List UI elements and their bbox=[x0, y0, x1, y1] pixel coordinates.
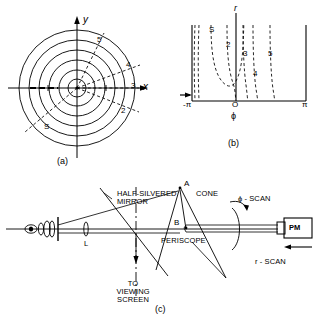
ray-2 bbox=[77, 88, 139, 112]
panel-b-tick-right: π bbox=[302, 101, 308, 109]
curve-S bbox=[211, 25, 244, 86]
panel-a-ring-label-3: 3 bbox=[131, 82, 135, 90]
curve-4 bbox=[253, 25, 258, 100]
panel-a-y-label: y bbox=[83, 15, 88, 26]
r-scan-arrowhead bbox=[284, 244, 291, 249]
panel-a-ring-label-2: 2 bbox=[121, 107, 125, 115]
panel-b-curve-label-2: 2 bbox=[226, 41, 230, 49]
lens-L-label: L bbox=[84, 240, 88, 248]
panel-c-tag: (c) bbox=[155, 305, 166, 314]
panel-a-ring-label-4: 4 bbox=[126, 61, 130, 69]
panel-a-y-arrow bbox=[74, 16, 80, 24]
panel-b-phi-label: ϕ bbox=[231, 112, 236, 121]
curve-5 bbox=[270, 25, 275, 100]
panel-a-graphic bbox=[0, 0, 180, 175]
panel-b-tag: (b) bbox=[228, 139, 239, 148]
cone-edge-inner bbox=[180, 190, 186, 229]
panel-a-x-label: x bbox=[143, 82, 148, 93]
curve-edge-1 bbox=[194, 25, 195, 100]
panel-b-curve-label-5: 5 bbox=[268, 50, 272, 58]
curve-2 bbox=[227, 25, 236, 100]
panel-b-curve-label-3: 3 bbox=[243, 50, 247, 58]
to-viewing-screen-label: TO VIEWING SCREEN bbox=[105, 280, 161, 304]
cone-face-right bbox=[180, 187, 226, 278]
point-b-label: B bbox=[174, 219, 179, 227]
point-a-marker bbox=[179, 187, 182, 190]
cone-label: CONE bbox=[196, 190, 218, 198]
panel-a-ring-label-5: 5 bbox=[97, 36, 101, 44]
pm-label: PM bbox=[289, 224, 300, 232]
phi-scan-arrowhead bbox=[243, 205, 249, 211]
phi-scan-label: ϕ - SCAN bbox=[238, 195, 271, 203]
panel-b-r-label: r bbox=[234, 4, 237, 13]
panel-a-origin bbox=[75, 86, 78, 89]
panel-b-tick-center: O bbox=[232, 101, 238, 109]
figure-root: y x 2 3 4 5 S (a) bbox=[0, 0, 325, 329]
r-scan-label: r - SCAN bbox=[255, 258, 286, 266]
panel-b-tick-left: -π bbox=[183, 101, 191, 109]
scatter-ray bbox=[192, 242, 226, 278]
laser-source-core bbox=[29, 226, 33, 231]
panel-b-curve-label-S: S bbox=[209, 26, 214, 34]
panel-a-tag: (a) bbox=[57, 157, 68, 166]
panel-b-x-arrow-head bbox=[185, 92, 192, 97]
panel-b-graphic bbox=[180, 5, 320, 130]
point-a-label: A bbox=[184, 180, 189, 188]
half-silvered-mirror-label: HALF-SILVERED MIRROR bbox=[117, 190, 177, 206]
panel-b-curve-label-4: 4 bbox=[253, 70, 257, 78]
panel-a-source-label: S bbox=[44, 123, 49, 131]
curve-edge-2 bbox=[198, 25, 199, 100]
periscope-label: PERISCOPE bbox=[161, 237, 206, 245]
